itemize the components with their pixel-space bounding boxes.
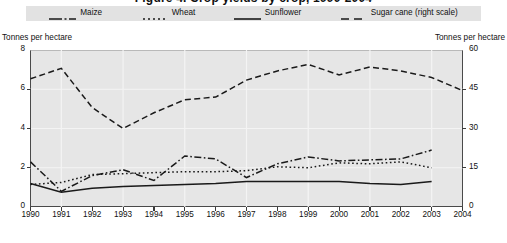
y-axis-left-tickmark-4 xyxy=(27,128,31,129)
x-axis-tickmark-1992 xyxy=(92,207,93,211)
x-axis-tickmark-1999 xyxy=(308,207,309,211)
y-axis-right-tick-15: 15 xyxy=(469,163,495,171)
x-axis-tick-2002: 2002 xyxy=(384,211,418,219)
chart-title: Figure 4. Crop yields by crop, 1990-2004 xyxy=(0,0,507,5)
x-axis-tick-2004: 2004 xyxy=(446,211,480,219)
x-axis-tick-1995: 1995 xyxy=(168,211,202,219)
y-axis-left-tick-4: 4 xyxy=(3,124,25,132)
x-axis-tick-1990: 1990 xyxy=(14,211,48,219)
x-axis-tick-1994: 1994 xyxy=(137,211,171,219)
x-axis-tickmark-1997 xyxy=(246,207,247,211)
x-axis-tickmark-2003 xyxy=(431,207,432,211)
legend-item-wheat: Wheat xyxy=(141,9,196,17)
legend-swatch-sugar-cane xyxy=(340,9,367,17)
x-axis-tick-1997: 1997 xyxy=(230,211,264,219)
y-axis-right-tick-0: 0 xyxy=(469,202,495,210)
x-axis-tickmark-2001 xyxy=(369,207,370,211)
y-axis-right-tick-30: 30 xyxy=(469,124,495,132)
series-line-wheat xyxy=(31,162,432,185)
legend-swatch-maize xyxy=(49,9,76,17)
x-axis-tickmark-1990 xyxy=(30,207,31,211)
legend-label-sunflower: Sunflower xyxy=(265,9,301,17)
series-line-sunflower xyxy=(31,181,432,192)
x-axis-tick-1992: 1992 xyxy=(75,211,109,219)
y-axis-right-tick-60: 60 xyxy=(469,45,495,53)
x-axis-tickmark-1993 xyxy=(123,207,124,211)
y-axis-left-tick-0: 0 xyxy=(3,202,25,210)
y-axis-left-tick-2: 2 xyxy=(3,163,25,171)
x-axis-tick-2003: 2003 xyxy=(415,211,449,219)
x-axis-tick-2001: 2001 xyxy=(353,211,387,219)
legend-swatch-sunflower xyxy=(234,9,261,17)
x-axis-tickmark-2000 xyxy=(339,207,340,211)
x-axis-tickmark-1998 xyxy=(277,207,278,211)
y-axis-left-tick-6: 6 xyxy=(3,84,25,92)
legend-label-maize: Maize xyxy=(80,9,102,17)
x-axis-tickmark-1994 xyxy=(153,207,154,211)
x-axis-tickmark-1991 xyxy=(61,207,62,211)
y-axis-left-tick-8: 8 xyxy=(3,45,25,53)
y-axis-right-tickmark-45 xyxy=(462,89,466,90)
y-axis-left-tickmark-2 xyxy=(27,167,31,168)
x-axis-tick-1998: 1998 xyxy=(260,211,294,219)
right-axis-caption: Tonnes per hectare xyxy=(435,33,505,42)
left-axis-caption: Tonnes per hectare xyxy=(2,33,72,42)
y-axis-left-tickmark-6 xyxy=(27,89,31,90)
x-axis-tickmark-1995 xyxy=(184,207,185,211)
legend-swatch-wheat xyxy=(141,9,168,17)
x-axis-tickmark-2004 xyxy=(462,207,463,211)
x-axis-tick-1999: 1999 xyxy=(291,211,325,219)
x-axis-tick-1993: 1993 xyxy=(106,211,140,219)
legend-item-maize: Maize xyxy=(49,9,102,17)
y-axis-right-tick-45: 45 xyxy=(469,84,495,92)
chart-legend: Maize Wheat Sunflower Sugar cane (right … xyxy=(26,6,481,21)
x-axis-tick-1996: 1996 xyxy=(199,211,233,219)
x-axis-tick-2000: 2000 xyxy=(322,211,356,219)
legend-item-sugar-cane: Sugar cane (right scale) xyxy=(340,9,458,17)
plot-series-svg xyxy=(30,50,463,207)
legend-label-sugar-cane: Sugar cane (right scale) xyxy=(371,9,458,17)
x-axis-tickmark-2002 xyxy=(400,207,401,211)
x-axis-tick-1991: 1991 xyxy=(44,211,78,219)
y-axis-right-tickmark-15 xyxy=(462,167,466,168)
y-axis-right-tickmark-30 xyxy=(462,128,466,129)
x-axis-tickmark-1996 xyxy=(215,207,216,211)
legend-label-wheat: Wheat xyxy=(172,9,196,17)
legend-item-sunflower: Sunflower xyxy=(234,9,301,17)
